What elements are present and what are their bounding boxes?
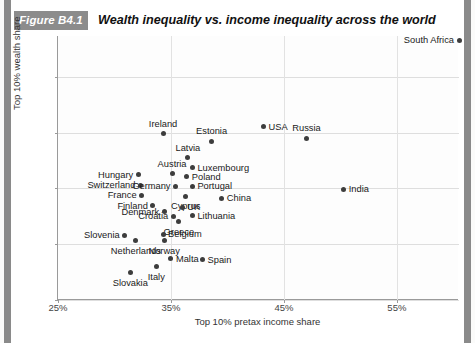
data-point-label: Hungary — [98, 170, 133, 180]
data-point-label: Latvia — [175, 143, 200, 153]
data-point[interactable] — [122, 233, 127, 238]
data-point-label: Slovakia — [113, 278, 148, 288]
figure-container: Figure B4.1 Wealth inequality vs. income… — [0, 0, 475, 343]
data-point-label: Estonia — [196, 126, 227, 136]
page-gutter-right — [464, 0, 471, 343]
gridline-horizontal — [58, 300, 459, 301]
data-point[interactable] — [161, 232, 166, 237]
data-point-label: Russia — [292, 123, 320, 133]
data-point[interactable] — [304, 136, 309, 141]
data-point-label: India — [349, 184, 369, 194]
data-point-label: China — [227, 193, 251, 203]
plot-area: 40%50%60%70%80% 25%35%45%55% South Afric… — [57, 36, 458, 300]
data-point-label: Italy — [148, 272, 165, 282]
y-tick-mark — [55, 77, 58, 78]
data-point[interactable] — [341, 187, 346, 192]
data-point[interactable] — [180, 205, 185, 210]
data-point-label: France — [108, 190, 137, 200]
y-axis-title: Top 10% wealth share — [11, 17, 22, 110]
data-point[interactable] — [133, 238, 138, 243]
x-axis-title: Top 10% pretax income share — [57, 316, 458, 327]
gridline-vertical — [397, 36, 398, 300]
data-point-label: South Africa — [404, 35, 454, 45]
x-tick-label: 35% — [146, 302, 196, 313]
data-point[interactable] — [176, 219, 181, 224]
data-point-label: Germany — [132, 181, 170, 191]
x-tick-label: 55% — [372, 302, 422, 313]
data-point[interactable] — [190, 184, 195, 189]
data-point[interactable] — [209, 139, 214, 144]
data-point-label: Austria — [158, 159, 187, 169]
data-point[interactable] — [190, 165, 195, 170]
figure-number-badge: Figure B4.1 — [14, 11, 88, 30]
data-point[interactable] — [139, 193, 144, 198]
data-point[interactable] — [136, 172, 141, 177]
data-point[interactable] — [173, 184, 178, 189]
data-point-label: Spain — [208, 255, 232, 265]
data-point[interactable] — [261, 124, 266, 129]
x-tick-label: 45% — [259, 302, 309, 313]
data-point[interactable] — [170, 171, 175, 176]
gridline-horizontal — [58, 77, 459, 78]
y-tick-mark — [55, 244, 58, 245]
data-point[interactable] — [162, 238, 167, 243]
y-tick-mark — [55, 188, 58, 189]
data-point[interactable] — [184, 174, 189, 179]
gridline-horizontal — [58, 133, 459, 134]
data-point-label: Lithuania — [197, 211, 235, 221]
data-point[interactable] — [183, 194, 188, 199]
data-point[interactable] — [219, 196, 224, 201]
y-tick-mark — [55, 133, 58, 134]
data-point[interactable] — [128, 270, 133, 275]
data-point[interactable] — [171, 214, 176, 219]
data-point[interactable] — [161, 131, 166, 136]
data-point-label: Slovenia — [84, 230, 120, 240]
data-point-label: Croatia — [138, 211, 168, 221]
data-point-label: Belgium — [168, 229, 202, 239]
data-point-label: Switzerland — [87, 180, 135, 190]
data-point-label: Portugal — [197, 181, 232, 191]
data-point-label: Ireland — [149, 119, 177, 129]
figure-header: Figure B4.1 Wealth inequality vs. income… — [14, 10, 454, 32]
data-point[interactable] — [154, 264, 159, 269]
data-point[interactable] — [457, 38, 462, 43]
gridline-vertical — [284, 36, 285, 300]
data-point[interactable] — [190, 213, 195, 218]
x-tick-label: 25% — [33, 302, 83, 313]
page-gutter-left — [4, 0, 11, 343]
data-point[interactable] — [168, 256, 173, 261]
data-point[interactable] — [200, 257, 205, 262]
figure-title: Wealth inequality vs. income inequality … — [98, 11, 436, 29]
data-point-label: Malta — [176, 254, 199, 264]
data-point-label: USA — [269, 122, 288, 132]
